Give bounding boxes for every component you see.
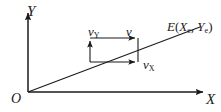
point-e-close-paren: ) <box>208 19 212 34</box>
y-component-vector-label: vY <box>88 25 100 40</box>
point-e-name: E <box>167 19 175 34</box>
origin-label: O <box>11 92 21 106</box>
point-e-label: E(Xe, Ye) <box>167 20 212 35</box>
resultant-vector-ray <box>28 27 200 92</box>
x-component-vector-label-subscript: X <box>149 64 155 73</box>
x-component-vector-label: vX <box>143 58 155 73</box>
y-axis-label: Y <box>27 4 35 19</box>
x-axis-label: X <box>206 92 215 107</box>
y-component-vector-label-subscript: Y <box>94 31 100 40</box>
point-e-coord-y: Y <box>197 19 204 34</box>
vector-decomposition-diagram: Y X O v vY vX E(Xe, Ye) <box>0 0 221 112</box>
resultant-vector-label: v <box>126 25 132 38</box>
